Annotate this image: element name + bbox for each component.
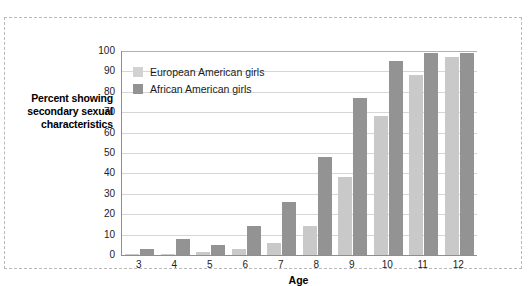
x-axis-title: Age — [121, 274, 476, 286]
y-axis-tick-label: 50 — [89, 148, 115, 158]
bar-group — [335, 51, 371, 255]
y-axis-tick-label: 90 — [89, 66, 115, 76]
bar-group — [371, 51, 407, 255]
x-axis-tick-label: 3 — [122, 259, 156, 270]
bar — [247, 226, 261, 255]
y-axis-tick-label: 0 — [89, 250, 115, 260]
bar-group — [406, 51, 442, 255]
legend-item: European American girls — [133, 65, 264, 79]
x-axis-tick-label: 5 — [193, 259, 227, 270]
bar — [211, 245, 225, 255]
bar — [389, 61, 403, 255]
x-axis-tick-label: 8 — [299, 259, 333, 270]
x-axis-tick-label: 12 — [441, 259, 475, 270]
chart-legend: European American girlsAfrican American … — [133, 65, 264, 99]
bar — [267, 243, 281, 255]
x-axis-tick-label: 7 — [264, 259, 298, 270]
bar — [338, 177, 352, 255]
bar — [282, 202, 296, 255]
bar — [176, 239, 190, 255]
bar-group — [264, 51, 300, 255]
bar — [445, 57, 459, 255]
y-axis-title: Percent showing secondary sexual charact… — [13, 92, 113, 132]
x-axis-tick-label: 6 — [228, 259, 262, 270]
bar — [232, 249, 246, 255]
legend-label: European American girls — [150, 66, 264, 78]
legend-item: African American girls — [133, 82, 264, 96]
bar — [303, 226, 317, 255]
x-axis-tick-label: 11 — [406, 259, 440, 270]
bar — [196, 252, 210, 255]
bar-group — [442, 51, 478, 255]
x-axis-tick-label: 4 — [157, 259, 191, 270]
bar — [140, 249, 154, 255]
y-axis-tick-label: 40 — [89, 168, 115, 178]
y-axis-tick-label: 30 — [89, 189, 115, 199]
x-axis-tick-label: 10 — [370, 259, 404, 270]
bar — [161, 254, 175, 255]
bar — [353, 98, 367, 255]
legend-swatch-icon — [133, 84, 143, 94]
bar — [409, 75, 423, 255]
bar — [460, 53, 474, 255]
x-axis-tick-label: 9 — [335, 259, 369, 270]
bar — [374, 116, 388, 255]
bar — [424, 53, 438, 255]
y-axis-tick-label: 10 — [89, 230, 115, 240]
bar — [318, 157, 332, 255]
y-axis-tick-label: 100 — [89, 46, 115, 56]
legend-swatch-icon — [133, 67, 143, 77]
legend-label: African American girls — [150, 83, 252, 95]
bar — [125, 254, 139, 255]
y-axis-tick-label: 20 — [89, 209, 115, 219]
bar-group — [300, 51, 336, 255]
figure-frame: 0102030405060708090100 3456789101112 Per… — [4, 17, 522, 269]
